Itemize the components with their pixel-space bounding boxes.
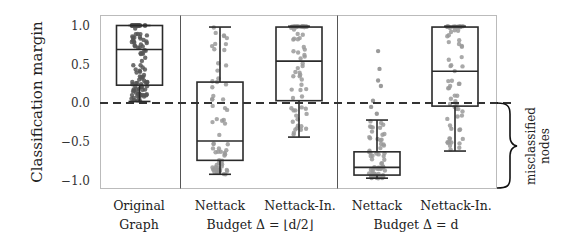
data-point bbox=[133, 43, 137, 47]
data-point bbox=[298, 36, 302, 40]
data-point bbox=[304, 127, 308, 131]
data-point bbox=[304, 107, 308, 111]
data-point bbox=[293, 108, 297, 112]
data-point bbox=[303, 47, 307, 51]
data-point bbox=[216, 150, 220, 154]
data-point bbox=[304, 87, 308, 91]
cat-label-nettack-2: Nettack bbox=[352, 198, 403, 213]
data-point bbox=[304, 112, 308, 116]
cat-label-nettack-1: Nettack bbox=[195, 198, 246, 213]
group-label-budget-full: Budget Δ = d bbox=[373, 217, 458, 232]
x-axis-labels: Original Graph Nettack Nettack-In. Netta… bbox=[113, 198, 492, 232]
y-tick-0.5: 0.5 bbox=[71, 58, 90, 72]
data-point bbox=[291, 120, 295, 124]
data-point bbox=[296, 66, 300, 70]
outlier-point bbox=[375, 112, 379, 116]
data-point bbox=[450, 79, 454, 83]
data-point bbox=[457, 82, 461, 86]
box-2 bbox=[276, 26, 322, 137]
data-point bbox=[222, 48, 226, 52]
data-point bbox=[223, 121, 227, 125]
data-point bbox=[138, 63, 142, 67]
data-point bbox=[223, 106, 227, 110]
data-point bbox=[145, 33, 149, 37]
data-point bbox=[367, 135, 371, 139]
data-point bbox=[215, 163, 219, 167]
data-point bbox=[143, 87, 147, 91]
data-point bbox=[225, 168, 229, 172]
data-point bbox=[222, 34, 226, 38]
data-point bbox=[447, 40, 451, 44]
data-point bbox=[138, 35, 142, 39]
data-point bbox=[449, 127, 453, 131]
data-point bbox=[210, 44, 214, 48]
data-point bbox=[131, 36, 135, 40]
data-point bbox=[289, 106, 293, 110]
data-point bbox=[210, 97, 214, 101]
annotation-line2: nodes bbox=[538, 128, 552, 164]
data-point bbox=[292, 37, 296, 41]
outlier-point bbox=[377, 67, 381, 71]
data-point bbox=[383, 168, 387, 172]
data-point bbox=[370, 129, 374, 133]
data-point bbox=[143, 56, 147, 60]
data-point bbox=[215, 117, 219, 121]
data-point bbox=[461, 137, 465, 141]
data-point bbox=[379, 162, 383, 166]
data-point bbox=[145, 80, 149, 84]
data-point bbox=[210, 85, 214, 89]
cat-label-original: Original bbox=[113, 198, 165, 213]
data-point bbox=[224, 63, 228, 67]
data-point bbox=[382, 132, 386, 136]
data-point bbox=[210, 120, 214, 124]
data-point bbox=[134, 70, 138, 74]
cat-label-graph: Graph bbox=[119, 217, 158, 232]
data-point bbox=[453, 93, 457, 97]
data-point bbox=[291, 74, 295, 78]
data-point bbox=[138, 51, 142, 55]
annotation-line1: misclassified bbox=[524, 107, 538, 185]
data-point bbox=[458, 127, 462, 131]
data-point bbox=[217, 133, 221, 137]
outlier-point bbox=[369, 105, 373, 109]
data-point bbox=[445, 117, 449, 121]
data-point bbox=[144, 93, 148, 97]
data-point bbox=[296, 50, 300, 54]
y-tick-1.0: 1.0 bbox=[71, 19, 90, 33]
data-point bbox=[456, 107, 460, 111]
data-point bbox=[293, 70, 297, 74]
data-point bbox=[291, 49, 295, 53]
data-point bbox=[457, 141, 461, 145]
data-point bbox=[302, 53, 306, 57]
outlier-point bbox=[379, 84, 383, 88]
data-point bbox=[144, 39, 148, 43]
data-point bbox=[369, 154, 373, 158]
y-tick-neg0.5: −0.5 bbox=[61, 135, 90, 149]
y-axis-label: Classification margin bbox=[28, 21, 46, 183]
data-point bbox=[214, 31, 218, 35]
data-point bbox=[300, 94, 304, 98]
data-point bbox=[447, 58, 451, 62]
data-point bbox=[379, 121, 383, 125]
data-point bbox=[131, 63, 135, 67]
group-label-budget-half: Budget Δ = ⌊d/2⌋ bbox=[206, 217, 313, 232]
data-point bbox=[298, 74, 302, 78]
box-4 bbox=[432, 26, 478, 151]
cat-label-nettack-in-1: Nettack-In. bbox=[264, 198, 335, 213]
data-point bbox=[226, 142, 230, 146]
data-point bbox=[223, 151, 227, 155]
data-point bbox=[131, 96, 135, 100]
curly-brace-icon bbox=[497, 103, 517, 188]
data-points bbox=[129, 23, 465, 180]
data-point bbox=[460, 109, 464, 113]
data-point bbox=[460, 55, 464, 59]
data-point bbox=[221, 97, 225, 101]
data-point bbox=[140, 59, 144, 63]
data-point bbox=[378, 126, 382, 130]
data-point bbox=[447, 33, 451, 37]
y-tick-0.0: 0.0 bbox=[71, 96, 90, 110]
data-point bbox=[293, 127, 297, 131]
data-point bbox=[460, 113, 464, 117]
data-point bbox=[300, 105, 304, 109]
cat-label-nettack-in-2: Nettack-In. bbox=[420, 198, 491, 213]
